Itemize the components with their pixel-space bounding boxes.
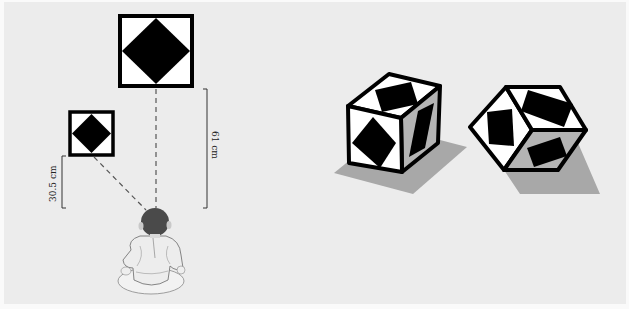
figure-canvas: 61 cm 30.5 cm: [0, 0, 629, 309]
baby-head: [141, 208, 169, 236]
near-distance-bracket: 30.5 cm: [48, 156, 66, 208]
far-distance-label: 61 cm: [210, 131, 220, 159]
distance-demo: 61 cm 30.5 cm: [48, 16, 220, 294]
far-distance-bracket: 61 cm: [203, 89, 220, 208]
near-sight-line: [94, 157, 146, 210]
near-distance-label: 30.5 cm: [48, 165, 58, 202]
baby-illustration: [118, 208, 185, 294]
cubes-demo: [334, 74, 600, 194]
cube-corner-view: [470, 87, 586, 170]
large-diamond-square: [120, 16, 192, 86]
small-diamond-square: [70, 112, 113, 155]
